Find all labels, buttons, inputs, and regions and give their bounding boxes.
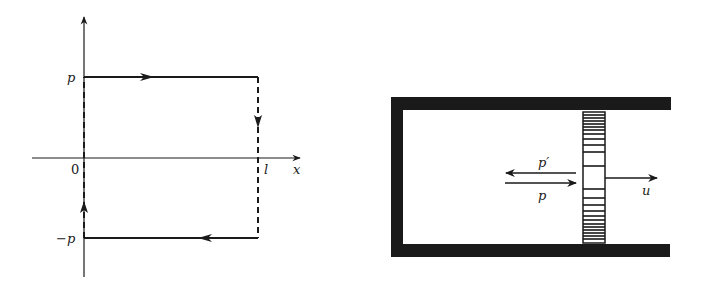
cylinder-diagram: p′ p u	[391, 97, 671, 257]
down-arrow-icon	[254, 115, 262, 128]
incoming-momentum-label: p	[538, 188, 547, 203]
cylinder-left-wall	[391, 97, 403, 257]
piston	[583, 112, 605, 243]
phase-diagram: p 0 l x −p	[32, 17, 301, 277]
origin-label: 0	[71, 162, 79, 177]
diagram-canvas: p 0 l x −p	[0, 0, 703, 287]
x-axis-label: x	[293, 162, 301, 177]
x-mark-label: l	[264, 162, 268, 177]
y-top-label: p	[67, 70, 76, 85]
y-bottom-label: −p	[56, 231, 76, 246]
reflected-momentum-label: p′	[538, 155, 549, 170]
cylinder-bottom-wall	[391, 244, 670, 257]
cylinder-top-wall	[391, 97, 671, 110]
piston-velocity-label: u	[642, 183, 650, 198]
